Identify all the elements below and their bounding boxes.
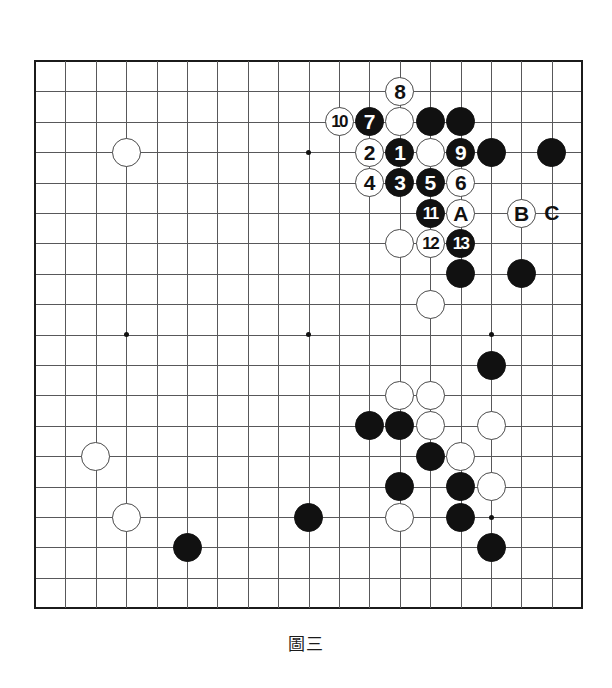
black-stone[interactable] [173,533,202,562]
white-stone[interactable] [416,290,445,319]
stone-label: 8 [394,81,405,102]
star-point [306,332,311,337]
black-stone[interactable] [446,259,475,288]
white-stone[interactable] [416,381,445,410]
stone-label: 11 [423,205,438,222]
white-stone[interactable] [446,442,475,471]
black-stone[interactable] [477,138,506,167]
black-stone-3[interactable]: 3 [385,168,414,197]
white-stone[interactable] [477,411,506,440]
go-board-grid: 8107219435611AB1213C [0,0,612,688]
white-stone-4[interactable]: 4 [355,168,384,197]
white-stone[interactable] [81,442,110,471]
black-stone-9[interactable]: 9 [446,138,475,167]
white-stone-6[interactable]: 6 [446,168,475,197]
grid-line-vertical [217,61,218,608]
black-stone[interactable] [477,351,506,380]
grid-line-vertical [521,61,522,608]
star-point [489,332,494,337]
white-stone-b[interactable]: B [507,199,536,228]
star-point [124,332,129,337]
black-stone[interactable] [294,503,323,532]
grid-line-vertical [187,61,188,608]
black-stone[interactable] [537,138,566,167]
stone-label: 7 [364,111,375,132]
grid-line-vertical [278,61,279,608]
stone-label: 10 [331,113,347,130]
white-stone-2[interactable]: 2 [355,138,384,167]
black-stone-5[interactable]: 5 [416,168,445,197]
grid-line-vertical [65,61,66,608]
stone-label: 12 [422,235,438,252]
stone-label: 6 [455,172,466,193]
black-stone[interactable] [385,411,414,440]
star-point [489,515,494,520]
board-border-vertical [581,60,583,609]
white-stone[interactable] [385,381,414,410]
diagram-page: 8107219435611AB1213C 圖三 [0,0,612,688]
black-stone-13[interactable]: 13 [446,229,475,258]
go-board-container: 8107219435611AB1213C 圖三 [0,0,612,688]
point-label-c: C [537,199,566,228]
figure-caption: 圖三 [0,630,612,655]
black-stone[interactable] [416,107,445,136]
white-stone[interactable] [416,138,445,167]
black-stone[interactable] [477,533,506,562]
stone-label: 1 [394,142,405,163]
white-stone[interactable] [385,229,414,258]
white-stone-12[interactable]: 12 [416,229,445,258]
white-stone-10[interactable]: 10 [325,107,354,136]
star-point [306,150,311,155]
board-border-vertical [34,60,36,609]
black-stone[interactable] [385,472,414,501]
grid-line-vertical [248,61,249,608]
white-stone[interactable] [385,107,414,136]
black-stone-7[interactable]: 7 [355,107,384,136]
caption-text: 圖三 [288,630,324,655]
white-stone[interactable] [385,503,414,532]
stone-label: 5 [425,172,436,193]
stone-label: A [453,203,468,224]
white-stone[interactable] [416,411,445,440]
grid-line-vertical [339,61,340,608]
stone-label: 2 [364,142,375,163]
white-stone[interactable] [112,503,141,532]
black-stone[interactable] [507,259,536,288]
black-stone[interactable] [446,503,475,532]
grid-line-vertical [157,61,158,608]
stone-label: B [514,203,529,224]
grid-line-vertical [96,61,97,608]
black-stone[interactable] [416,442,445,471]
black-stone[interactable] [446,107,475,136]
white-stone[interactable] [112,138,141,167]
stone-label: 13 [453,235,469,252]
white-stone-a[interactable]: A [446,199,475,228]
white-stone-8[interactable]: 8 [385,77,414,106]
stone-label: 9 [455,142,466,163]
black-stone[interactable] [446,472,475,501]
black-stone-11[interactable]: 11 [416,199,445,228]
black-stone-1[interactable]: 1 [385,138,414,167]
white-stone[interactable] [477,472,506,501]
stone-label: 4 [364,172,375,193]
black-stone[interactable] [355,411,384,440]
stone-label: 3 [394,172,405,193]
